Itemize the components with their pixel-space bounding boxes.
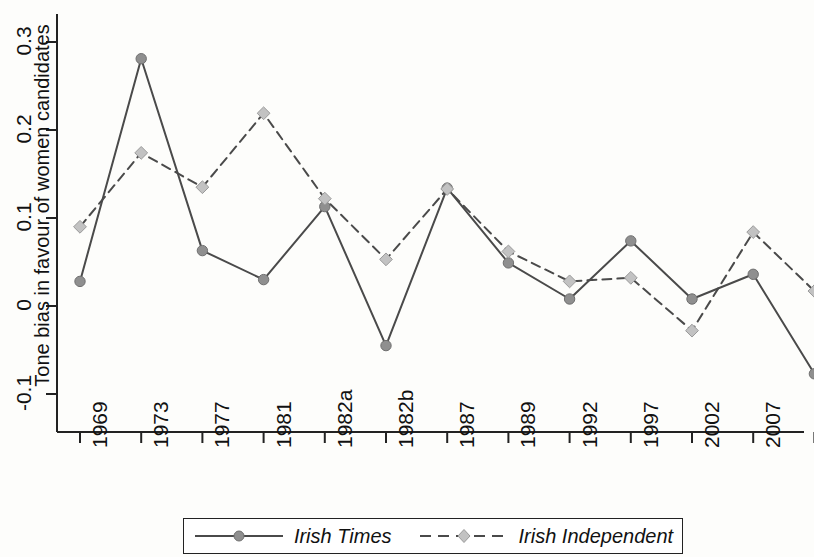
data-point-marker <box>381 340 391 350</box>
x-tick-label: 1973 <box>149 401 173 448</box>
data-point-marker <box>686 324 699 337</box>
legend-key-solid-circle <box>193 527 285 545</box>
y-tick-label: 0.1 <box>12 177 36 257</box>
x-tick-label: 1982b <box>394 390 418 448</box>
data-point-marker <box>563 275 576 288</box>
y-tick-label: 0.2 <box>12 89 36 169</box>
data-point-marker <box>503 258 513 268</box>
chart-legend: Irish Times Irish Independent <box>183 518 683 554</box>
x-tick-label: 1977 <box>210 401 234 448</box>
data-point-marker <box>258 274 268 284</box>
series-line-irish-times <box>80 59 814 374</box>
x-tick-label: 2007 <box>761 401 785 448</box>
x-tick-label: 1997 <box>639 401 663 448</box>
y-tick-label: -0.1 <box>12 353 36 433</box>
data-point-marker <box>197 245 207 255</box>
x-tick-label: 1982a <box>333 390 357 448</box>
data-point-marker <box>748 269 758 279</box>
legend-key-dashed-diamond <box>418 527 510 545</box>
data-point-marker <box>626 236 636 246</box>
data-point-marker <box>809 369 814 379</box>
data-point-marker <box>687 294 697 304</box>
data-point-marker <box>136 54 146 64</box>
y-tick-label: 0.3 <box>12 1 36 81</box>
x-tick-label: 2002 <box>700 401 724 448</box>
x-tick-label: 1981 <box>272 401 296 448</box>
x-tick-label: 1989 <box>516 401 540 448</box>
data-point-marker <box>564 294 574 304</box>
data-point-marker <box>75 276 85 286</box>
chart-root: Tone bias in favour of women candidates … <box>0 0 814 557</box>
legend-item-irish-independent[interactable]: Irish Independent <box>418 525 674 548</box>
legend-label-irish-times: Irish Times <box>294 525 392 548</box>
x-tick-label: 1987 <box>455 401 479 448</box>
y-tick-label: 0 <box>12 265 36 345</box>
legend-item-irish-times[interactable]: Irish Times <box>193 525 392 548</box>
legend-label-irish-independent: Irish Independent <box>519 525 674 548</box>
x-tick-label: 1992 <box>578 401 602 448</box>
series-line-irish-independent <box>80 113 814 330</box>
x-tick-label: 1969 <box>88 401 112 448</box>
